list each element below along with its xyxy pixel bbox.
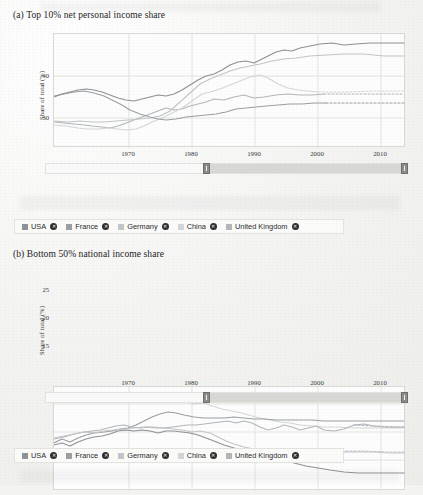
chart-a-svg [54,34,406,148]
legend-swatch-usa [22,224,28,230]
legend-label-china: China [187,451,206,460]
legend-remove-china-icon[interactable]: ✕ [210,452,217,459]
legend-item-germany[interactable]: Germany ✕ [118,451,168,460]
legend-swatch-france [66,453,72,459]
legend-item-china[interactable]: China ✕ [178,451,217,460]
chart-a-gridlines [54,34,406,148]
series-line-united-kingdom [54,94,324,128]
legend-swatch-united-kingdom [226,453,232,459]
chart-a-slider-handle-left[interactable] [203,163,210,174]
chart-a-year-range-slider[interactable] [45,163,408,174]
legend-remove-usa-icon[interactable]: ✕ [50,223,57,230]
chart-a-xtick-1970: 1970 [108,150,148,157]
chart-a-slider-selected-range[interactable] [206,164,407,173]
series-line-germany [54,54,404,122]
chart-b-ytick-25: 25 [33,286,49,293]
legend-swatch-china [178,453,184,459]
series-dashed-china [318,91,404,92]
chart-b-ytick-15: 15 [33,342,49,349]
chart-a-xtick-2010: 2010 [360,150,400,157]
chart-a-slider-handle-right[interactable] [401,163,408,174]
chart-a-plot-area [53,33,405,147]
legend-item-usa[interactable]: USA ✕ [22,222,57,231]
chart-a-ytick-40: 40 [33,72,49,79]
legend-item-china[interactable]: China ✕ [178,222,217,231]
legend-remove-united-kingdom-icon[interactable]: ✕ [292,452,299,459]
chart-b-slider-handle-left[interactable] [203,392,210,403]
legend-item-france[interactable]: France ✕ [66,451,109,460]
chart-a-xtick-1980: 1980 [171,150,211,157]
legend-item-germany[interactable]: Germany ✕ [118,222,168,231]
legend-label-usa: USA [31,222,46,231]
legend-remove-germany-icon[interactable]: ✕ [162,223,169,230]
legend-swatch-usa [22,453,28,459]
series-line-united-kingdom [54,421,404,439]
chart-b-xtick-1970: 1970 [108,379,148,386]
legend-item-united-kingdom[interactable]: United Kingdom ✕ [226,451,299,460]
chart-b-xtick-2000: 2000 [297,379,337,386]
legend-label-france: France [75,451,98,460]
panel-a-caption: (a) Top 10% net personal income share [13,10,165,20]
legend-label-germany: Germany [127,222,157,231]
chart-a-xtick-1990: 1990 [234,150,274,157]
chart-a-ytick-30: 30 [33,114,49,121]
legend-remove-germany-icon[interactable]: ✕ [162,452,169,459]
chart-b-slider-selected-range[interactable] [206,393,407,402]
legend-swatch-china [178,224,184,230]
legend-remove-china-icon[interactable]: ✕ [210,223,217,230]
legend-label-germany: Germany [127,451,157,460]
legend-swatch-germany [118,453,124,459]
chart-b-xtick-2010: 2010 [360,379,400,386]
legend-item-usa[interactable]: USA ✕ [22,451,57,460]
legend-remove-united-kingdom-icon[interactable]: ✕ [292,223,299,230]
chart-b-year-range-slider[interactable] [45,392,408,403]
legend-swatch-united-kingdom [226,224,232,230]
chart-a-xtick-2000: 2000 [297,150,337,157]
legend-swatch-germany [118,224,124,230]
legend-item-united-kingdom[interactable]: United Kingdom ✕ [226,222,299,231]
legend-remove-usa-icon[interactable]: ✕ [50,452,57,459]
panel-b-caption: (b) Bottom 50% national income share [13,249,164,259]
legend-label-china: China [187,222,206,231]
legend-remove-france-icon[interactable]: ✕ [102,452,109,459]
legend-swatch-france [66,224,72,230]
chart-a-legend[interactable]: USA ✕ France ✕ Germany ✕ China ✕ United … [14,219,344,234]
legend-label-united-kingdom: United Kingdom [235,222,288,231]
chart-b-xtick-1980: 1980 [171,379,211,386]
legend-label-usa: USA [31,451,46,460]
legend-remove-france-icon[interactable]: ✕ [102,223,109,230]
chart-b-legend[interactable]: USA ✕ France ✕ Germany ✕ China ✕ United … [14,448,344,463]
legend-item-france[interactable]: France ✕ [66,222,109,231]
legend-label-france: France [75,222,98,231]
chart-b-slider-handle-right[interactable] [401,392,408,403]
chart-b-xtick-1990: 1990 [234,379,274,386]
legend-label-united-kingdom: United Kingdom [235,451,288,460]
chart-b-ytick-20: 20 [33,314,49,321]
